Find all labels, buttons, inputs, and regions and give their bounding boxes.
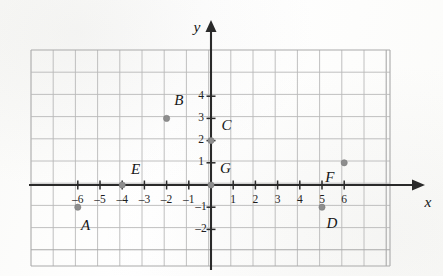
x-tick-label: –6 [71,193,84,205]
x-tick-label: 6 [341,193,347,205]
x-tick-label: –1 [182,193,195,205]
x-tick-label: –2 [160,193,173,205]
coordinate-plane-svg: –6–5–4–3–2–11234564321–1–2 ABCDEFG xy [0,0,443,276]
x-axis-label: x [424,193,432,210]
y-axis-label: y [192,18,201,35]
point-label-f: F [324,169,335,185]
axis-name-labels: xy [192,18,432,210]
x-tick-label: –3 [138,193,151,205]
y-axis-arrowhead [206,20,217,32]
data-point-a [75,204,81,210]
x-tick-label: 4 [297,193,303,205]
data-point-f [341,160,347,166]
figure-canvas: –6–5–4–3–2–11234564321–1–2 ABCDEFG xy [0,0,443,276]
data-point-b [164,115,170,121]
point-label-a: A [80,217,91,233]
point-label-g: G [220,160,231,176]
x-axis-arrowhead [412,180,425,191]
x-tick-label: –4 [115,193,128,205]
y-tick-label: –2 [194,222,207,234]
x-tick-label: 2 [253,193,259,205]
y-tick-label: 2 [198,133,204,145]
point-label-c: C [222,117,233,133]
point-label-d: D [326,215,338,231]
x-tick-label: –5 [93,193,106,205]
y-tick-label: 1 [198,155,204,167]
point-label-b: B [174,92,183,108]
data-point-d [319,204,325,210]
data-point-e [119,182,125,188]
y-tick-label: –1 [194,200,207,212]
data-point-g [208,182,214,188]
y-tick-label: 4 [198,89,204,101]
x-tick-label: 5 [319,193,325,205]
data-point-c [208,138,214,144]
point-label-e: E [130,161,140,177]
x-tick-label: 1 [230,193,236,205]
x-tick-label: 3 [275,193,281,205]
y-tick-label: 3 [198,111,204,123]
